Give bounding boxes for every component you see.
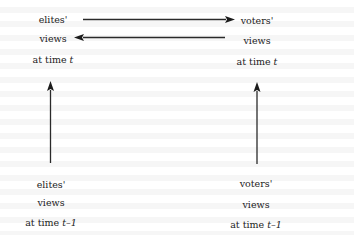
diagram-arrows <box>0 0 354 235</box>
arrow-right-icon <box>83 16 235 23</box>
arrow-up-icon <box>254 82 261 164</box>
arrow-up-icon <box>47 81 54 163</box>
arrow-left-icon <box>74 34 225 41</box>
